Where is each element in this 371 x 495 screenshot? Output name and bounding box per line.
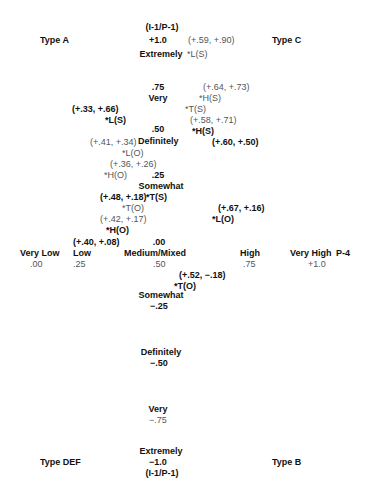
point-label: *T(S) [185,104,206,115]
point-coord: (+.59, +.90) [188,35,235,46]
v-tick-label: Extremely [139,49,182,60]
point-label: *T(O) [122,203,144,214]
h-tick-label: Low [73,248,91,259]
v-tick-label: Definitely [138,136,179,147]
corner-label-type-def: Type DEF [40,457,81,468]
horizontal-axis-label: P-4 [336,248,350,259]
point-coord: (+.41, +.34) [90,137,137,148]
h-tick-label: High [240,248,260,259]
point-coord: (+.64, +.73) [203,82,250,93]
h-tick-value: .50 [153,259,166,270]
v-tick-label: Definitely [141,347,182,358]
v-tick-value: .75 [152,82,165,93]
point-coord: (+.60, +.50) [212,137,259,148]
corner-label-type-b: Type B [272,457,301,468]
v-tick-label: Very [148,93,167,104]
point-label: *L(O) [122,148,144,159]
v-tick-value: −.25 [150,301,168,312]
v-tick-value: .25 [152,170,165,181]
point-coord: (+.40, +.08) [73,237,120,248]
point-label: *H(O) [106,225,129,236]
v-tick-value: −1.0 [149,457,167,468]
v-tick-label: Extremely [139,446,182,457]
vertical-axis-top-label: (I-1/P-1) [145,22,178,33]
point-label: *T(S) [146,192,167,203]
point-coord: (+.48, +.18) [100,192,147,203]
point-label: *H(S) [199,93,221,104]
point-coord: (+.36, +.26) [110,159,157,170]
h-tick-value: .00 [30,259,43,270]
point-coord: (+.52, −.18) [179,270,226,281]
corner-label-type-c: Type C [272,35,301,46]
v-tick-value: −.75 [149,415,167,426]
point-label: *L(O) [212,214,234,225]
corner-label-type-a: Type A [40,35,69,46]
point-coord: (+.58, +.71) [190,115,237,126]
h-tick-value: .25 [73,259,86,270]
point-coord: (+.33, +.66) [72,104,119,115]
h-tick-label: Very High [290,248,332,259]
h-tick-value: +1.0 [308,259,326,270]
point-label: *H(S) [192,126,214,137]
point-label: *L(S) [105,115,126,126]
point-label: *L(S) [187,49,208,60]
point-coord: (+.42, +.17) [100,214,147,225]
h-tick-label: Medium/Mixed [124,248,186,259]
v-tick-value: −.50 [150,358,168,369]
vertical-axis-bottom-label: (I-1/P-1) [145,468,178,479]
v-tick-label: Somewhat [138,181,183,192]
v-tick-value: .50 [152,124,165,135]
point-label: *T(O) [174,281,196,292]
h-tick-label: Very Low [20,248,60,259]
h-tick-value: .75 [243,259,256,270]
v-tick-value: +1.0 [149,35,167,46]
v-tick-label: Very [148,404,167,415]
point-label: *H(O) [104,170,127,181]
point-coord: (+.67, +.16) [218,203,265,214]
v-tick-value: .00 [153,237,166,248]
